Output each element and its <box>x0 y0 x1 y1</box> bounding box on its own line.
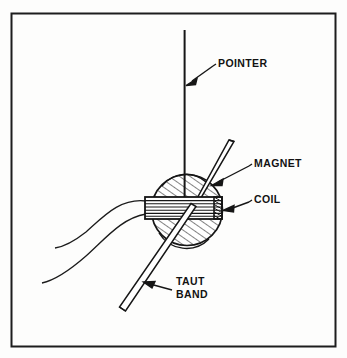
coil-end-cap <box>214 197 222 219</box>
label-taut-band-line1: TAUT <box>176 275 205 287</box>
label-taut-band-line2: BAND <box>176 288 208 300</box>
label-coil: COIL <box>254 193 281 205</box>
label-pointer: POINTER <box>218 57 267 69</box>
label-magnet: MAGNET <box>254 157 302 169</box>
figure-canvas: POINTER MAGNET COIL TAUT BAND <box>0 0 347 358</box>
taut-band-meter-diagram: POINTER MAGNET COIL TAUT BAND <box>0 0 347 358</box>
